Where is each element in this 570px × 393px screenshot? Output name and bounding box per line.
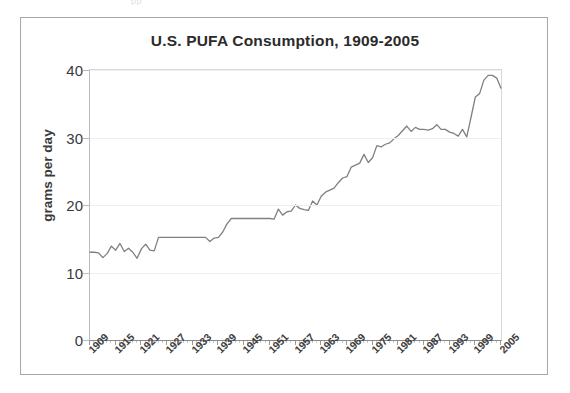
x-tick-mark-minor bbox=[213, 341, 214, 343]
gridline-y bbox=[90, 205, 501, 206]
y-tick-label: 0 bbox=[37, 333, 83, 348]
y-tick-label: 30 bbox=[37, 131, 83, 146]
x-tick-mark-minor bbox=[419, 341, 420, 343]
x-tick-mark-minor bbox=[342, 341, 343, 343]
x-tick-mark-minor bbox=[162, 341, 163, 343]
x-tick-mark-minor bbox=[239, 341, 240, 343]
x-tick-mark-minor bbox=[444, 341, 445, 343]
gridline-y bbox=[90, 273, 501, 274]
x-tick-mark-minor bbox=[265, 341, 266, 343]
x-tick-mark-minor bbox=[290, 341, 291, 343]
figure-page: pp U.S. PUFA Consumption, 1909-2005 gram… bbox=[0, 0, 570, 393]
x-tick-mark-minor bbox=[393, 341, 394, 343]
x-tick-mark-minor bbox=[136, 341, 137, 343]
scan-artifact-text: pp bbox=[131, 0, 171, 5]
chart-title: U.S. PUFA Consumption, 1909-2005 bbox=[21, 32, 549, 50]
gridline-y bbox=[90, 70, 501, 71]
y-tick-label: 10 bbox=[37, 266, 83, 281]
y-tick-label: 20 bbox=[37, 198, 83, 213]
x-axis-ticks: 1909191519211927193319391945195119571963… bbox=[89, 341, 503, 393]
y-tick-label: 40 bbox=[37, 63, 83, 78]
x-tick-mark-minor bbox=[110, 341, 111, 343]
chart-frame: U.S. PUFA Consumption, 1909-2005 grams p… bbox=[20, 17, 548, 375]
x-tick-mark-minor bbox=[496, 341, 497, 343]
plot-area bbox=[89, 69, 502, 341]
x-tick-mark-minor bbox=[316, 341, 317, 343]
x-tick-mark-minor bbox=[470, 341, 471, 343]
x-tick-mark-minor bbox=[367, 341, 368, 343]
x-tick-mark-minor bbox=[187, 341, 188, 343]
gridline-y bbox=[90, 138, 501, 139]
series-line bbox=[90, 75, 501, 258]
y-axis-ticks: 010203040 bbox=[21, 69, 83, 341]
